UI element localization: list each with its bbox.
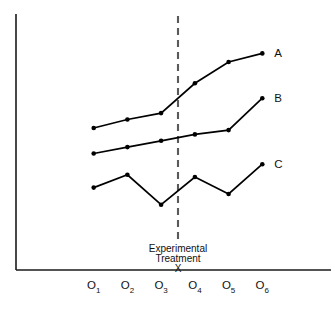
time-series-chart: A B C Experimental Treatment X O1O2O3O4O… <box>0 0 335 310</box>
data-point <box>193 81 198 86</box>
data-point <box>226 60 231 65</box>
x-tick-label: O1 <box>87 279 101 295</box>
data-point <box>159 202 164 207</box>
x-tick-label: O5 <box>222 279 236 295</box>
data-point <box>91 151 96 156</box>
x-axis-tick-labels: O1O2O3O4O5O6 <box>87 279 270 295</box>
x-tick-label: O2 <box>121 279 135 295</box>
data-point <box>226 192 231 197</box>
x-tick-label: O4 <box>188 279 202 295</box>
data-point <box>159 139 164 144</box>
data-point <box>159 111 164 116</box>
intervention-label-line3: X <box>175 263 182 274</box>
series-label-a: A <box>274 47 282 59</box>
data-point <box>125 117 130 122</box>
x-tick-label: O6 <box>256 279 270 295</box>
series-label-c: C <box>274 158 282 170</box>
data-point <box>91 126 96 131</box>
data-point <box>226 128 231 133</box>
data-point <box>260 162 265 167</box>
chart-container: A B C Experimental Treatment X O1O2O3O4O… <box>0 0 335 310</box>
data-point <box>125 173 130 178</box>
data-point <box>91 185 96 190</box>
data-point <box>193 175 198 180</box>
data-point <box>260 96 265 101</box>
data-point <box>125 145 130 150</box>
x-tick-label: O3 <box>154 279 168 295</box>
data-point <box>260 51 265 56</box>
data-point <box>193 132 198 137</box>
series-label-b: B <box>274 92 282 104</box>
